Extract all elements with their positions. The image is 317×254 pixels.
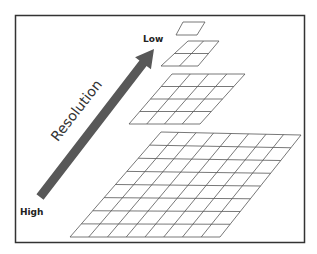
- high-label: High: [20, 207, 43, 217]
- low-label: Low: [143, 34, 163, 44]
